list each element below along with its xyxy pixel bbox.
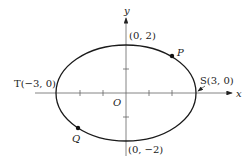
- bottom-point-label: (0, −2): [128, 144, 163, 155]
- point-p-marker: [170, 54, 174, 58]
- ellipse-diagram: y x O (0, 2) (0, −2) T(−3, 0) S(3, 0) P …: [0, 0, 245, 160]
- top-point-label: (0, 2): [129, 30, 156, 41]
- x-axis-label: x: [236, 88, 242, 99]
- point-s-label: S(3, 0): [200, 75, 234, 86]
- point-t-label: T(−3, 0): [14, 78, 56, 89]
- s-pointer-arrow: [198, 86, 205, 91]
- origin-label: O: [113, 97, 121, 108]
- y-axis-label: y: [123, 5, 130, 16]
- point-p-label: P: [176, 47, 184, 58]
- point-q-label: Q: [72, 133, 80, 144]
- point-q-marker: [76, 126, 80, 130]
